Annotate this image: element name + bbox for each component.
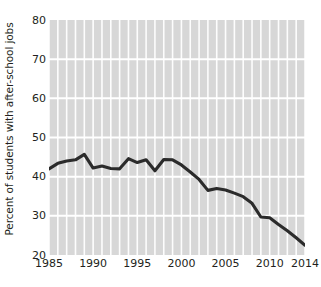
x-axis-tick-label: 1995 (123, 258, 151, 269)
y-axis-tick-label: 60 (22, 93, 46, 104)
plot-svg (49, 20, 305, 255)
x-axis-tick-label: 2010 (256, 258, 284, 269)
y-axis-tick-label: 80 (22, 15, 46, 26)
horizontal-gridlines (49, 59, 305, 216)
y-axis-tick-label: 50 (22, 132, 46, 143)
x-axis-tick-labels: 1985199019952000200520102014 (0, 258, 321, 274)
y-axis-tick-labels: 80706050403020 (22, 0, 46, 287)
plot-area (49, 20, 305, 255)
x-axis-tick-label: 1990 (79, 258, 107, 269)
y-axis-tick-label: 40 (22, 171, 46, 182)
line-chart: Percent of students with after-school jo… (0, 0, 321, 287)
x-axis-tick-label: 2000 (167, 258, 195, 269)
x-axis-tick-label: 2014 (291, 258, 319, 269)
data-series-line (49, 154, 305, 245)
y-axis-title: Percent of students with after-school jo… (0, 0, 18, 258)
y-axis-tick-label: 30 (22, 210, 46, 221)
x-axis-tick-label: 1985 (35, 258, 63, 269)
x-axis-tick-label: 2005 (212, 258, 240, 269)
y-axis-tick-label: 70 (22, 54, 46, 65)
